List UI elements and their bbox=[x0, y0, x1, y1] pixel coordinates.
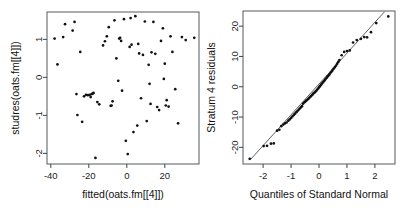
x-tick-label: 0 bbox=[316, 170, 321, 181]
data-point bbox=[137, 43, 140, 46]
data-point bbox=[79, 51, 82, 54]
data-point bbox=[160, 40, 163, 43]
x-tick-label: 2 bbox=[372, 170, 377, 181]
data-point bbox=[115, 57, 118, 60]
data-point bbox=[145, 120, 148, 123]
x-tick-label: 1 bbox=[344, 170, 349, 181]
data-point bbox=[177, 122, 180, 125]
y-tick-label: -10 bbox=[230, 110, 241, 124]
data-point bbox=[113, 19, 116, 22]
data-point bbox=[121, 89, 124, 92]
data-point bbox=[111, 100, 114, 103]
data-point bbox=[360, 38, 363, 41]
data-point bbox=[134, 15, 137, 18]
data-point bbox=[142, 54, 145, 57]
data-point bbox=[164, 104, 167, 107]
data-point bbox=[98, 103, 101, 106]
data-point bbox=[158, 109, 161, 112]
data-point bbox=[102, 44, 105, 47]
data-point bbox=[148, 82, 151, 85]
data-point bbox=[387, 15, 390, 18]
data-point bbox=[56, 63, 59, 66]
data-point bbox=[152, 21, 155, 24]
data-point bbox=[167, 105, 170, 108]
data-point bbox=[144, 20, 147, 23]
plot-frame bbox=[47, 12, 199, 164]
data-point bbox=[181, 36, 184, 39]
data-point bbox=[136, 124, 139, 127]
data-point bbox=[132, 131, 135, 134]
data-point bbox=[363, 36, 366, 39]
x-tick-label: -1 bbox=[287, 170, 295, 181]
data-point bbox=[104, 40, 107, 43]
left-plot-canvas: -40-2002010-1-2fitted(oats.fm[[4]])studr… bbox=[0, 0, 206, 209]
right-plot-canvas: -2-101220100-10-20Quantiles of Standard … bbox=[206, 0, 412, 209]
data-point bbox=[174, 88, 177, 91]
data-point bbox=[128, 46, 131, 49]
y-axis-title: Stratum 4 residuals bbox=[206, 42, 217, 132]
data-point bbox=[94, 157, 97, 160]
data-point bbox=[154, 52, 157, 55]
x-tick-label: -40 bbox=[44, 170, 58, 181]
data-point bbox=[352, 41, 355, 44]
data-point bbox=[147, 63, 150, 66]
data-point bbox=[163, 78, 166, 81]
data-point bbox=[162, 27, 165, 30]
data-point bbox=[266, 144, 269, 147]
data-point bbox=[150, 51, 153, 54]
data-point bbox=[184, 39, 187, 42]
y-tick-label: 0 bbox=[34, 75, 45, 80]
data-point bbox=[262, 145, 265, 148]
data-point bbox=[123, 18, 126, 21]
data-point bbox=[338, 59, 341, 62]
data-point bbox=[76, 114, 79, 117]
data-point bbox=[171, 51, 174, 54]
data-point bbox=[53, 37, 56, 40]
data-point bbox=[163, 62, 166, 65]
x-tick-label: 20 bbox=[160, 170, 171, 181]
data-point bbox=[92, 92, 95, 95]
data-points bbox=[53, 15, 195, 159]
data-point bbox=[301, 105, 304, 108]
data-point bbox=[73, 21, 76, 24]
data-point bbox=[370, 31, 373, 34]
data-point bbox=[169, 35, 172, 38]
y-tick-label: 10 bbox=[230, 51, 241, 62]
data-point bbox=[125, 139, 128, 142]
y-tick-label: -1 bbox=[34, 111, 45, 119]
reference-line bbox=[251, 12, 385, 160]
y-tick-label: 0 bbox=[230, 84, 241, 89]
data-point bbox=[117, 79, 120, 82]
data-point bbox=[248, 158, 251, 161]
data-point bbox=[120, 40, 123, 43]
data-point bbox=[340, 54, 343, 57]
data-point bbox=[64, 23, 67, 26]
data-point bbox=[140, 97, 143, 100]
data-point bbox=[81, 120, 84, 123]
data-point bbox=[343, 51, 346, 54]
data-point bbox=[278, 128, 281, 131]
data-point bbox=[106, 35, 109, 38]
y-tick-label: 1 bbox=[34, 37, 45, 42]
data-point bbox=[129, 17, 132, 20]
data-point bbox=[165, 99, 168, 102]
qq-panel-stratum4: -2-101220100-10-20Quantiles of Standard … bbox=[206, 0, 412, 209]
data-point bbox=[272, 142, 275, 145]
data-point bbox=[119, 36, 122, 39]
data-point bbox=[71, 29, 74, 32]
data-point bbox=[89, 96, 92, 99]
y-tick-label: -2 bbox=[34, 149, 45, 157]
figure-root: -40-2002010-1-2fitted(oats.fm[[4]])studr… bbox=[0, 0, 412, 209]
data-point bbox=[126, 153, 129, 156]
data-point bbox=[149, 103, 152, 106]
data-point bbox=[138, 52, 141, 55]
data-point bbox=[75, 93, 78, 96]
data-point bbox=[110, 104, 113, 107]
scatter-panel-residuals-vs-fitted: -40-2002010-1-2fitted(oats.fm[[4]])studr… bbox=[0, 0, 206, 209]
y-tick-label: 20 bbox=[230, 21, 241, 32]
x-axis-title: fitted(oats.fm[[4]]) bbox=[82, 188, 164, 200]
data-point bbox=[62, 36, 65, 39]
x-axis-title: Quantiles of Standard Normal bbox=[250, 188, 388, 200]
data-point bbox=[96, 101, 99, 104]
data-point bbox=[270, 142, 273, 145]
